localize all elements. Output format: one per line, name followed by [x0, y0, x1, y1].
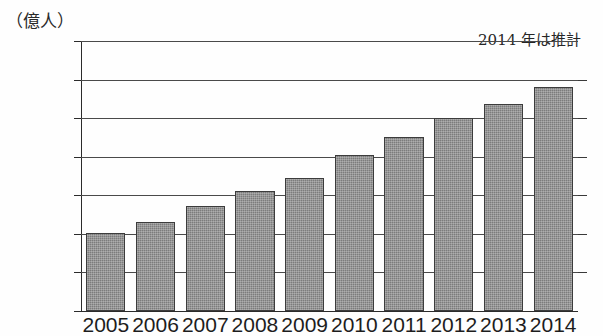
y-axis-tick-right [578, 118, 587, 119]
x-axis-tick-label: 2014 [523, 314, 583, 335]
bar [186, 206, 225, 311]
bar [86, 233, 125, 311]
bar [136, 222, 175, 311]
bar [235, 191, 274, 311]
bar [285, 178, 324, 311]
y-axis-tick [74, 195, 81, 196]
y-axis-tick [74, 311, 81, 312]
y-axis-tick-right [578, 80, 587, 81]
y-axis-tick [74, 157, 81, 158]
gridline [81, 80, 578, 81]
y-axis-tick [74, 80, 81, 81]
y-axis-tick-right [578, 195, 587, 196]
plot-area [81, 41, 578, 311]
y-axis-tick-right [578, 234, 587, 235]
y-axis-tick [74, 234, 81, 235]
bar [534, 87, 573, 311]
y-axis-unit-label: （億人） [6, 7, 74, 32]
y-axis-tick-right [578, 272, 587, 273]
bar [384, 137, 423, 311]
gridline [81, 311, 578, 312]
y-axis-tick-right [578, 157, 587, 158]
gridline [81, 41, 578, 42]
y-axis-tick [74, 272, 81, 273]
bar-chart-figure: （億人） 2014 年は推計 0510152025303520052006200… [0, 0, 603, 336]
y-axis-tick [74, 118, 81, 119]
bar [335, 155, 374, 311]
bar [484, 104, 523, 312]
y-axis-tick [74, 41, 81, 42]
bar [434, 118, 473, 311]
